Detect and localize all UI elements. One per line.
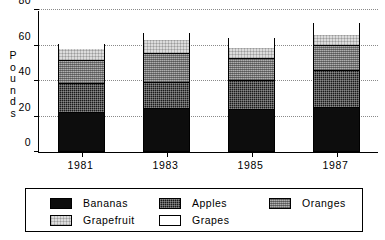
y-axis-tick-mark	[34, 45, 39, 46]
bar-segment-grapefruit[interactable]	[314, 35, 359, 47]
x-axis-tick-label: 1981	[68, 159, 94, 171]
legend-swatch-grapes	[159, 215, 181, 226]
bar-segment-apples[interactable]	[144, 83, 189, 110]
stacked-bar[interactable]	[313, 23, 360, 152]
x-axis-tick-mark	[252, 152, 253, 157]
bar-group	[143, 10, 190, 152]
bar-segment-grapefruit[interactable]	[229, 48, 274, 59]
bar-segment-apples[interactable]	[59, 84, 104, 113]
legend-item-bananas[interactable]: Bananas	[50, 198, 128, 209]
bar-segment-oranges[interactable]	[229, 59, 274, 81]
bar-segment-grapes[interactable]	[314, 23, 359, 35]
bar-segment-grapes[interactable]	[144, 33, 189, 40]
y-axis-tick-mark	[34, 80, 39, 81]
bar-segment-bananas[interactable]	[229, 110, 274, 152]
chart-legend: BananasApplesOrangesGrapefruitGrapes	[25, 188, 363, 232]
x-axis-tick-mark	[337, 152, 338, 157]
legend-item-apples[interactable]: Apples	[159, 198, 227, 209]
stacked-bar[interactable]	[143, 33, 190, 152]
legend-swatch-bananas	[50, 198, 72, 209]
bar-segment-grapes[interactable]	[229, 38, 274, 49]
x-axis-tick-mark	[82, 152, 83, 157]
bar-segment-grapefruit[interactable]	[144, 40, 189, 54]
bar-segment-oranges[interactable]	[314, 46, 359, 71]
bar-segment-oranges[interactable]	[59, 61, 104, 83]
plot-area: 020406080	[38, 11, 378, 153]
bar-group	[228, 10, 275, 152]
bar-group	[58, 10, 105, 152]
legend-label: Grapes	[192, 215, 229, 226]
bar-segment-apples[interactable]	[229, 81, 274, 110]
y-axis-tick-label: 20	[19, 101, 31, 112]
y-axis-tick-label: 0	[25, 137, 31, 148]
x-axis-tick-mark	[167, 152, 168, 157]
bar-group	[313, 10, 360, 152]
y-axis-tick-label: 40	[19, 66, 31, 77]
legend-item-grapes[interactable]: Grapes	[159, 215, 229, 226]
legend-swatch-grapefruit	[50, 215, 72, 226]
y-axis-tick-label: 60	[19, 30, 31, 41]
bar-segment-bananas[interactable]	[314, 108, 359, 152]
bar-segment-apples[interactable]	[314, 71, 359, 107]
bar-segment-bananas[interactable]	[144, 109, 189, 152]
stacked-bar[interactable]	[58, 44, 105, 152]
legend-label: Bananas	[83, 198, 128, 209]
legend-label: Grapefruit	[83, 215, 135, 226]
x-axis-tick-label: 1985	[238, 159, 264, 171]
y-axis-tick-label: 80	[19, 0, 31, 5]
legend-swatch-apples	[159, 198, 181, 209]
stacked-bar[interactable]	[228, 38, 275, 152]
x-axis-tick-label: 1983	[153, 159, 179, 171]
legend-item-oranges[interactable]: Oranges	[269, 198, 346, 209]
legend-label: Apples	[192, 198, 227, 209]
bar-segment-grapefruit[interactable]	[59, 49, 104, 61]
bar-segment-oranges[interactable]	[144, 54, 189, 82]
legend-label: Oranges	[302, 198, 346, 209]
legend-item-grapefruit[interactable]: Grapefruit	[50, 215, 135, 226]
bar-segment-bananas[interactable]	[59, 113, 104, 152]
y-axis-title-letter: P	[6, 50, 20, 62]
legend-swatch-oranges	[269, 198, 291, 209]
y-axis-tick-mark	[34, 116, 39, 117]
y-axis-tick-mark	[34, 9, 39, 10]
x-axis-tick-label: 1987	[323, 159, 349, 171]
y-axis-tick-mark	[34, 151, 39, 152]
chart-page: Pounds 020406080 1981198319851987 Banana…	[0, 0, 385, 240]
